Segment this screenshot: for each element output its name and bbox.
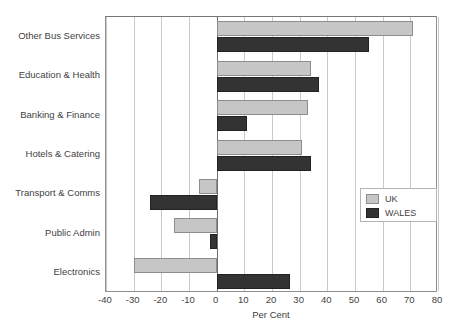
category-label: Public Admin bbox=[0, 227, 100, 238]
legend-swatch-uk-icon bbox=[366, 194, 379, 204]
bar-uk-hotels-catering bbox=[217, 140, 303, 155]
gridline bbox=[410, 17, 411, 291]
x-axis-ticks: -40-30-20-1001020304050607080 bbox=[105, 294, 437, 308]
legend-swatch-wales-icon bbox=[366, 208, 379, 218]
x-tick-label: 60 bbox=[376, 294, 387, 305]
category-label: Transport & Comms bbox=[0, 187, 100, 198]
gridline bbox=[189, 17, 190, 291]
legend-label: UK bbox=[385, 194, 398, 204]
x-tick-label: 10 bbox=[238, 294, 249, 305]
gridline bbox=[383, 17, 384, 291]
x-tick-label: -30 bbox=[126, 294, 140, 305]
x-tick-label: -10 bbox=[181, 294, 195, 305]
x-tick-label: -40 bbox=[98, 294, 112, 305]
x-tick-label: 80 bbox=[432, 294, 443, 305]
gridline bbox=[161, 17, 162, 291]
bar-uk-education-health bbox=[217, 61, 311, 76]
bar-wales-banking-finance bbox=[217, 116, 247, 131]
category-label: Electronics bbox=[0, 266, 100, 277]
bar-uk-transport-comms bbox=[199, 179, 217, 194]
bar-wales-hotels-catering bbox=[217, 156, 311, 171]
bar-wales-public-admin bbox=[210, 234, 217, 249]
x-tick-label: 50 bbox=[349, 294, 360, 305]
legend-item-wales: WALES bbox=[366, 207, 431, 219]
legend-item-uk: UK bbox=[366, 193, 431, 205]
gridline bbox=[134, 17, 135, 291]
bar-uk-other-bus-services bbox=[217, 21, 413, 36]
bar-wales-education-health bbox=[217, 77, 319, 92]
bar-uk-banking-finance bbox=[217, 100, 308, 115]
bar-wales-other-bus-services bbox=[217, 37, 369, 52]
category-axis-labels: Other Bus ServicesEducation & HealthBank… bbox=[0, 16, 100, 292]
x-tick-label: 40 bbox=[321, 294, 332, 305]
gridline bbox=[438, 17, 439, 291]
bar-wales-electronics bbox=[217, 274, 290, 289]
chart-legend: UKWALES bbox=[360, 188, 437, 222]
gridline bbox=[327, 17, 328, 291]
bar-uk-electronics bbox=[134, 258, 217, 273]
x-axis-title: Per Cent bbox=[105, 309, 437, 320]
x-tick-label: 20 bbox=[266, 294, 277, 305]
bar-wales-transport-comms bbox=[150, 195, 216, 210]
category-label: Hotels & Catering bbox=[0, 148, 100, 159]
x-tick-label: -20 bbox=[153, 294, 167, 305]
category-label: Banking & Finance bbox=[0, 109, 100, 120]
gridline bbox=[355, 17, 356, 291]
bar-chart: Other Bus ServicesEducation & HealthBank… bbox=[0, 0, 462, 333]
plot-area bbox=[105, 16, 437, 292]
x-tick-label: 30 bbox=[293, 294, 304, 305]
category-label: Education & Health bbox=[0, 69, 100, 80]
x-tick-label: 70 bbox=[404, 294, 415, 305]
bar-uk-public-admin bbox=[174, 218, 217, 233]
gridline bbox=[106, 17, 107, 291]
legend-label: WALES bbox=[385, 208, 416, 218]
x-tick-label: 0 bbox=[213, 294, 218, 305]
category-label: Other Bus Services bbox=[0, 30, 100, 41]
